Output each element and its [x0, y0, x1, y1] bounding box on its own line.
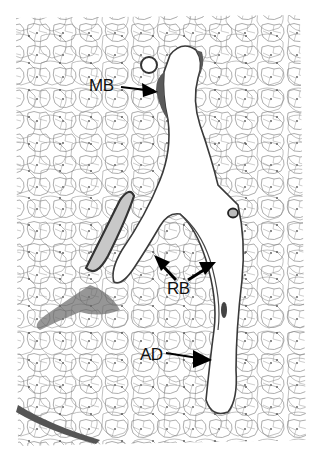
label-rb: RB	[167, 280, 190, 297]
alveolar-tissue	[0, 0, 327, 454]
label-mb: MB	[89, 77, 114, 94]
lung-micrograph	[0, 0, 327, 454]
vessel	[141, 57, 157, 73]
label-ad: AD	[140, 346, 163, 363]
